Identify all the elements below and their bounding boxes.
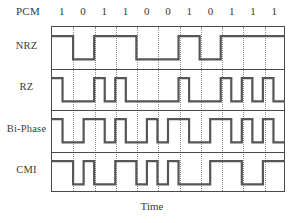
pcm-bit-6: 1 bbox=[182, 5, 196, 17]
waveform-figure: PCM 10110010111 NRZRZBi-PhaseCMI Time bbox=[0, 0, 304, 223]
x-axis-label: Time bbox=[0, 200, 304, 212]
pcm-bit-8: 1 bbox=[225, 5, 239, 17]
row-label-cmi: CMI bbox=[2, 164, 51, 175]
waveform-nrz bbox=[52, 27, 284, 69]
pcm-bit-7: 0 bbox=[204, 5, 218, 17]
pcm-bit-4: 0 bbox=[140, 5, 154, 17]
pcm-bit-5: 0 bbox=[161, 5, 175, 17]
row-label-rz: RZ bbox=[2, 81, 51, 92]
waveform-bi-phase bbox=[52, 110, 284, 152]
waveform-rz bbox=[52, 69, 284, 111]
waveform-traces bbox=[52, 27, 284, 191]
waveform-plot-area bbox=[51, 26, 285, 192]
pcm-bit-2: 1 bbox=[97, 5, 111, 17]
pcm-bit-0: 1 bbox=[55, 5, 69, 17]
pcm-bit-3: 1 bbox=[118, 5, 132, 17]
row-label-bi-phase: Bi-Phase bbox=[2, 123, 51, 134]
row-label-nrz: NRZ bbox=[2, 40, 51, 51]
pcm-bit-10: 1 bbox=[267, 5, 281, 17]
pcm-header-row: PCM 10110010111 bbox=[0, 2, 304, 22]
pcm-label: PCM bbox=[6, 5, 50, 17]
pcm-bit-9: 1 bbox=[246, 5, 260, 17]
pcm-bit-sequence: 10110010111 bbox=[51, 5, 285, 21]
pcm-bit-1: 0 bbox=[76, 5, 90, 17]
waveform-cmi bbox=[52, 152, 284, 194]
